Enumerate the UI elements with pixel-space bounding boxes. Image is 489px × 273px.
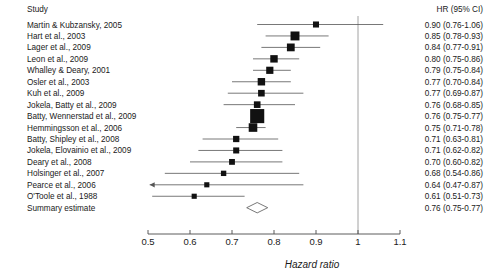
point-estimate-marker [233,147,239,153]
study-row: Hart et al., 20030.85 (0.78-0.93) [27,31,483,40]
study-label: Whalley & Deary, 2001 [27,66,111,75]
summary-diamond [247,203,268,213]
point-estimate-marker [313,21,319,27]
study-label: Batty, Wennerstad et al., 2009 [27,112,137,121]
summary-label: Summary estimate [27,204,96,213]
hr-column-header: HR (95% CI) [437,5,484,14]
point-estimate-marker [221,171,226,176]
study-row: Hemmingsson et al., 20060.75 (0.71-0.78) [27,123,483,132]
hr-value-label: 0.85 (0.78-0.93) [425,32,484,41]
point-estimate-marker [249,123,258,132]
study-label: Martin & Kubzansky, 2005 [27,21,122,30]
study-row: Deary et al., 20080.70 (0.60-0.82) [27,158,483,167]
hr-value-label: 0.76 (0.68-0.85) [425,101,484,110]
study-row: Kuh et al., 20090.77 (0.69-0.87) [27,89,483,98]
plot-headers: Study HR (95% CI) [27,5,483,14]
point-estimate-marker [233,136,239,142]
hr-value-label: 0.71 (0.62-0.82) [425,146,484,155]
study-label: Holsinger et al., 2007 [27,169,105,178]
hr-value-label: 0.77 (0.69-0.87) [425,89,484,98]
study-label: Batty, Shipley et al., 2008 [27,135,120,144]
study-row: Whalley & Deary, 20010.79 (0.75-0.84) [27,66,483,75]
study-label: O'Toole et al., 1988 [27,192,98,201]
study-row: Martin & Kubzansky, 20050.90 (0.76-1.06) [27,21,483,30]
point-estimate-marker [270,55,277,62]
axis-tick-label: 0.6 [183,236,196,247]
point-estimate-marker [258,78,265,85]
study-label: Lager et al., 2009 [27,43,91,52]
study-row: Leon et al., 20090.80 (0.75-0.86) [27,55,483,64]
summary-estimate-row: Summary estimate0.76 (0.75-0.77) [27,203,483,213]
point-estimate-marker [258,90,265,97]
hr-value-label: 0.64 (0.47-0.87) [425,181,484,190]
hr-value-label: 0.70 (0.60-0.82) [425,158,484,167]
axis-tick-label: 1 [355,236,360,247]
axis-tick-label: 1.1 [393,236,406,247]
ci-left-arrow [150,182,155,187]
study-label: Jokela, Elovainio et al., 2009 [27,146,132,155]
study-label: Deary et al., 2008 [27,158,92,167]
point-estimate-marker [266,67,273,74]
study-label: Pearce et al., 2006 [27,181,96,190]
study-row: Jokela, Elovainio et al., 20090.71 (0.62… [27,146,483,155]
point-estimate-marker [287,44,295,52]
study-row: Holsinger et al., 20070.68 (0.54-0.86) [27,169,483,178]
study-row: O'Toole et al., 19880.61 (0.51-0.73) [27,192,483,201]
point-estimate-marker [250,109,264,123]
point-estimate-marker [254,101,261,108]
hr-value-label: 0.75 (0.71-0.78) [425,124,484,133]
study-label: Jokela, Batty et al., 2009 [27,101,117,110]
axis-tick-label: 0.9 [309,236,322,247]
summary-hr-value: 0.76 (0.75-0.77) [425,204,484,213]
forest-plot: Study HR (95% CI) Martin & Kubzansky, 20… [0,0,489,273]
hr-value-label: 0.84 (0.77-0.91) [425,43,484,52]
hr-value-label: 0.71 (0.63-0.81) [425,135,484,144]
study-label: Hart et al., 2003 [27,32,86,41]
study-rows: Martin & Kubzansky, 20050.90 (0.76-1.06)… [27,21,483,202]
study-row: Batty, Wennerstad et al., 20090.76 (0.75… [27,109,483,123]
study-row: Pearce et al., 20060.64 (0.47-0.87) [27,181,483,190]
study-row: Osler et al., 20030.77 (0.70-0.84) [27,78,483,87]
study-label: Kuh et al., 2009 [27,89,85,98]
axis-tick-label: 0.5 [141,236,154,247]
hr-value-label: 0.77 (0.70-0.84) [425,78,484,87]
point-estimate-marker [291,31,300,40]
hr-value-label: 0.61 (0.51-0.73) [425,192,484,201]
hr-value-label: 0.80 (0.75-0.86) [425,55,484,64]
point-estimate-marker [204,182,209,187]
axis-tick-label: 0.7 [225,236,238,247]
hr-value-label: 0.90 (0.76-1.06) [425,21,484,30]
axis-tick-label: 0.8 [267,236,280,247]
x-axis: 0.50.60.70.80.911.1 [141,230,406,247]
hr-value-label: 0.76 (0.75-0.77) [425,112,484,121]
study-row: Lager et al., 20090.84 (0.77-0.91) [27,43,483,52]
study-row: Jokela, Batty et al., 20090.76 (0.68-0.8… [27,101,483,110]
study-label: Osler et al., 2003 [27,78,90,87]
hr-value-label: 0.68 (0.54-0.86) [425,169,484,178]
hr-value-label: 0.79 (0.75-0.84) [425,66,484,75]
study-row: Batty, Shipley et al., 20080.71 (0.63-0.… [27,135,483,144]
study-label: Hemmingsson et al., 2006 [27,124,123,133]
study-column-header: Study [27,5,49,14]
point-estimate-marker [229,159,235,165]
point-estimate-marker [192,194,197,199]
study-label: Leon et al., 2009 [27,55,88,64]
x-axis-title: Hazard ratio [285,259,340,270]
